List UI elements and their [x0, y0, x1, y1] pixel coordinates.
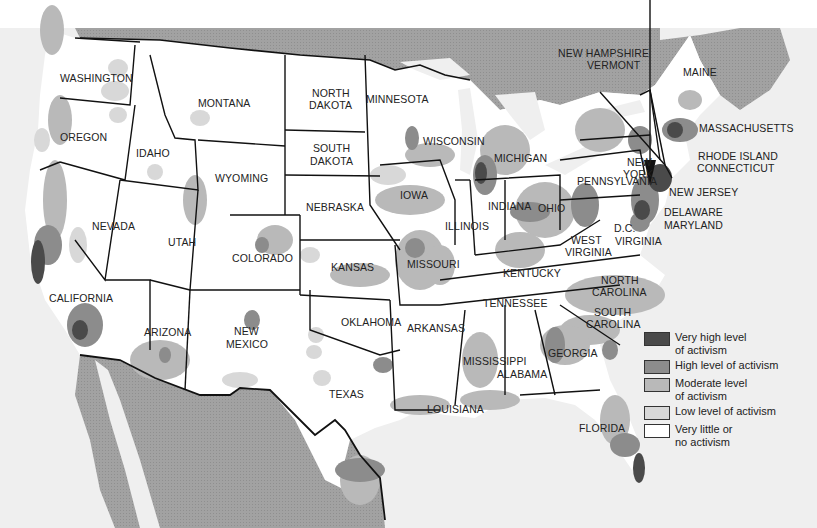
state-label: CAROLINA — [586, 318, 640, 330]
state-label: DAKOTA — [310, 155, 353, 167]
state-label: UTAH — [168, 236, 196, 248]
state-label: WASHINGTON — [60, 72, 133, 84]
state-label: LOUISIANA — [427, 403, 484, 415]
state-label: NEW JERSEY — [669, 186, 738, 198]
legend-item-high: High level of activism — [644, 359, 814, 374]
legend-label-2: no activism — [675, 436, 730, 448]
state-label: RHODE ISLAND — [698, 150, 778, 162]
state-label: SOUTH — [594, 306, 631, 318]
activism-map: WASHINGTONMONTANANORTHDAKOTAMINNESOTAORE… — [0, 0, 817, 528]
swatch-very-high — [644, 332, 670, 346]
legend-label: Low level of activism — [675, 405, 776, 418]
state-label: NORTH — [601, 274, 639, 286]
legend-label: Very high level — [675, 331, 747, 343]
legend-item-very-high: Very high levelof activism — [644, 331, 814, 356]
state-label: INDIANA — [488, 200, 531, 212]
state-label: ARIZONA — [144, 326, 191, 338]
state-label: WISCONSIN — [423, 135, 485, 147]
state-label: MEXICO — [226, 338, 268, 350]
state-label: WEST — [571, 234, 602, 246]
state-label: NEVADA — [92, 220, 135, 232]
state-label: ALABAMA — [497, 368, 547, 380]
legend-item-low: Low level of activism — [644, 405, 814, 420]
state-label: VIRGINIA — [615, 235, 662, 247]
swatch-moderate — [644, 378, 670, 392]
state-label: FLORIDA — [579, 422, 625, 434]
state-label: DELAWARE — [664, 206, 723, 218]
legend-item-none: Very little orno activism — [644, 423, 814, 448]
legend-label-2: of activism — [675, 390, 727, 402]
swatch-none — [644, 424, 670, 438]
state-label: OKLAHOMA — [341, 316, 401, 328]
swatch-low — [644, 406, 670, 420]
state-label: MINNESOTA — [366, 93, 429, 105]
state-label: ILLINOIS — [445, 220, 489, 232]
legend-label: Very little or — [675, 423, 732, 435]
state-label: MONTANA — [198, 97, 250, 109]
state-label: NEW HAMPSHIRE — [558, 47, 649, 59]
state-label: OHIO — [538, 202, 565, 214]
state-label: NEW — [627, 156, 652, 168]
state-label: IDAHO — [136, 147, 170, 159]
legend-label: Moderate level — [675, 377, 747, 389]
state-label: MAINE — [683, 66, 717, 78]
state-label: VIRGINIA — [565, 246, 612, 258]
state-label: COLORADO — [232, 252, 293, 264]
state-label: ARKANSAS — [407, 322, 465, 334]
state-label: GEORGIA — [548, 347, 598, 359]
state-label: MISSOURI — [407, 258, 460, 270]
state-label: TENNESSEE — [483, 297, 548, 309]
state-label: DAKOTA — [309, 99, 352, 111]
state-label: MICHIGAN — [494, 152, 547, 164]
state-label: NEW — [234, 325, 259, 337]
state-label: WYOMING — [215, 172, 268, 184]
state-label: KENTUCKY — [503, 267, 561, 279]
state-label: SOUTH — [313, 142, 350, 154]
state-label: MASSACHUSETTS — [699, 122, 794, 134]
legend-item-moderate: Moderate levelof activism — [644, 377, 814, 402]
state-label: NORTH — [312, 87, 350, 99]
state-label: MISSISSIPPI — [463, 355, 527, 367]
state-label: CAROLINA — [592, 286, 646, 298]
state-label: IOWA — [400, 189, 428, 201]
legend-label-2: of activism — [675, 344, 727, 356]
legend-label: High level of activism — [675, 359, 778, 372]
state-label: D.C. — [614, 222, 635, 234]
state-label: VERMONT — [587, 59, 641, 71]
state-label: OREGON — [60, 131, 107, 143]
state-label: NEBRASKA — [306, 201, 364, 213]
swatch-high — [644, 360, 670, 374]
state-label: PENNSYLVANIA — [577, 175, 657, 187]
top-margin — [0, 0, 817, 28]
state-label: MARYLAND — [664, 219, 723, 231]
state-label: CALIFORNIA — [49, 292, 113, 304]
state-label: KANSAS — [331, 261, 374, 273]
state-label: TEXAS — [329, 388, 364, 400]
state-label: CONNECTICUT — [697, 162, 775, 174]
legend: Very high levelof activism High level of… — [644, 331, 814, 451]
